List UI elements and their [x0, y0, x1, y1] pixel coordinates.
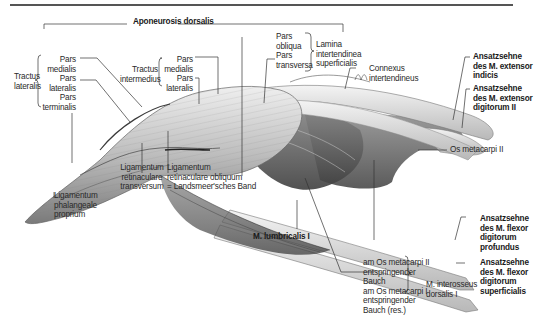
label-tractus-intermedius: Tractus intermedius	[120, 65, 158, 84]
label-ext-digitorum: Ansatzsehne des M. extensor digitorum II	[473, 84, 533, 113]
label-lig-phalangeale: Ligamentum phalangeale proprium	[54, 191, 98, 220]
label-lumbricalis: M. lumbricalis I	[253, 232, 310, 242]
label-tractus-lateralis: Tractus lateralis	[14, 72, 36, 91]
label-flex-superficialis: Ansatzsehne des M. flexor digitorum supe…	[480, 258, 529, 296]
label-aponeurosis-dorsalis: Aponeurosis dorsalis	[133, 17, 214, 27]
label-lig-obliquum: Ligamentum retinaculare obliquum = Lands…	[167, 163, 256, 192]
label-interosseus-parts: am Os metacarpi II entspringender Bauch …	[363, 258, 429, 316]
label-pars-group-intermedius: Pars medialis Pars lateralis	[163, 55, 193, 93]
label-os-metacarpi: Os metacarpi II	[450, 145, 503, 155]
label-ext-indicis: Ansatzsehne des M. extensor indicis	[473, 52, 533, 81]
label-interosseus: M. interosseus dorsalis I	[426, 280, 477, 299]
label-flex-profundus: Ansatzsehne des M. flexor digitorum prof…	[480, 214, 529, 252]
label-lamina-intertendinea: Lamina intertendinea superficialis	[316, 40, 361, 69]
label-connexus-intertendineus: Connexus intertendineus	[369, 64, 418, 83]
label-lig-transversum: Ligamentum retinaculare transversum	[112, 163, 172, 192]
label-pars-group-lateralis: Pars medialis Pars lateralis Pars termin…	[42, 55, 76, 113]
label-pars-group-lamina: Pars obliqua Pars transversa	[276, 32, 313, 70]
